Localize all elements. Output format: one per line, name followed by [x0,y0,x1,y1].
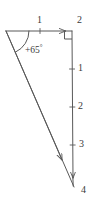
vertical-tick-label-3: 3 [79,139,84,149]
angle-label: +65° [25,44,43,56]
triangle-diagram-svg [0,0,98,204]
vertical-tick-label-4: 4 [81,185,86,195]
angle-value: +65 [25,45,40,55]
vertical-vector-line [72,31,73,178]
vertical-tick-label-1: 1 [78,63,83,73]
right-angle-marker-icon [65,31,73,39]
vertical-tick-label-2: 2 [78,101,83,111]
horizontal-tick-label-1: 1 [37,15,42,25]
figure-container: 1 2 1 2 3 4 +65° [0,0,98,204]
horizontal-tick-label-2: 2 [77,15,82,25]
degree-symbol-icon: ° [40,43,43,51]
